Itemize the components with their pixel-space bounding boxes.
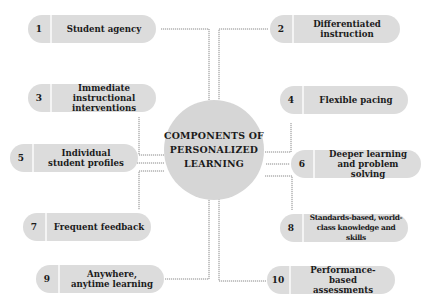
- component-number: 6: [291, 159, 313, 169]
- component-student-agency: 1 Student agency: [28, 15, 156, 43]
- component-number: 7: [23, 222, 45, 232]
- component-number: 3: [28, 93, 50, 103]
- component-standards-based-knowledge-skills: 8 Standards-based, world-class knowledge…: [280, 214, 408, 242]
- component-number: 4: [280, 95, 302, 105]
- center-title-line-3: LEARNING: [184, 158, 244, 169]
- component-number: 1: [28, 24, 50, 34]
- component-flexible-pacing: 4 Flexible pacing: [280, 86, 408, 114]
- component-frequent-feedback: 7 Frequent feedback: [23, 213, 151, 241]
- component-immediate-instructional-interventions: 3 Immediate instructional interventions: [28, 84, 156, 112]
- component-anywhere-anytime-learning: 9 Anywhere, anytime learning: [36, 265, 164, 293]
- component-label: Deeper learning and problem solving: [315, 149, 421, 179]
- component-number: 8: [280, 223, 302, 233]
- center-circle: COMPONENTS OF PERSONALIZED LEARNING: [164, 100, 264, 200]
- component-individual-student-profiles: 5 Individual student profiles: [10, 144, 138, 172]
- component-label: Differentiated instruction: [294, 19, 400, 39]
- component-number: 9: [36, 274, 58, 284]
- component-label: Student agency: [52, 24, 156, 34]
- component-number: 10: [267, 275, 289, 285]
- component-label: Standards-based, world-class knowledge a…: [304, 213, 408, 243]
- component-number: 5: [10, 153, 32, 163]
- component-label: Flexible pacing: [304, 95, 408, 105]
- component-performance-based-assessments: 10 Performance-based assessments: [267, 266, 395, 294]
- component-label: Performance-based assessments: [291, 265, 395, 295]
- component-label: Anywhere, anytime learning: [60, 269, 164, 289]
- component-number: 2: [270, 24, 292, 34]
- component-label: Individual student profiles: [34, 148, 138, 168]
- center-title: COMPONENTS OF PERSONALIZED LEARNING: [164, 129, 264, 171]
- component-label: Immediate instructional interventions: [52, 83, 156, 113]
- center-title-line-2: PERSONALIZED: [170, 144, 258, 155]
- personalized-learning-diagram: COMPONENTS OF PERSONALIZED LEARNING 1 St…: [0, 0, 428, 302]
- component-label: Frequent feedback: [47, 222, 151, 232]
- component-deeper-learning-problem-solving: 6 Deeper learning and problem solving: [291, 150, 421, 178]
- center-title-line-1: COMPONENTS OF: [164, 130, 264, 141]
- component-differentiated-instruction: 2 Differentiated instruction: [270, 15, 400, 43]
